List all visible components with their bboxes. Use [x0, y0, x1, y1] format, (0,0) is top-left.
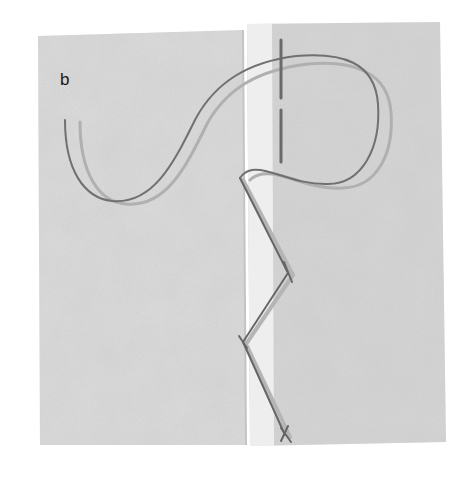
fabric-right — [247, 22, 446, 446]
panel-label: b — [60, 70, 69, 90]
